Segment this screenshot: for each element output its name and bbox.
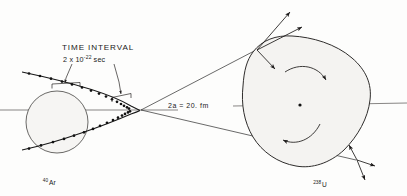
impact-parameter-label: 2a = 20. fm <box>168 102 209 109</box>
scatter-arrow-low-inward <box>349 145 357 160</box>
leader-line-left <box>65 64 72 83</box>
uranium-symbol: U <box>322 181 327 188</box>
uranium-nucleus-outline <box>242 36 370 167</box>
uranium-nucleus-center <box>298 103 301 106</box>
scatter-arrow-low-a <box>357 160 375 166</box>
figure-root: 40 Ar <box>0 0 407 196</box>
time-interval-heading: TIME INTERVAL <box>62 43 134 52</box>
time-interval-value: 2 x 10-22sec <box>63 54 106 64</box>
time-interval-exponent: -22 <box>84 54 92 60</box>
scatter-arrow-low-b <box>357 160 365 180</box>
scattering-diagram: 40 Ar <box>0 0 407 196</box>
uranium-nucleus-group: 238 U <box>242 12 375 188</box>
argon-mass-number: 40 <box>43 178 49 183</box>
uranium-mass-number: 238 <box>313 180 321 185</box>
tangent-point-arrows-lower <box>349 145 375 180</box>
tangent-line-upper <box>141 49 258 110</box>
time-interval-unit: sec <box>94 55 106 64</box>
leader-line-right <box>114 64 121 94</box>
argon-symbol: Ar <box>49 179 56 186</box>
argon-nucleus-circle <box>26 91 88 153</box>
time-interval-mantissa: 2 x 10 <box>63 55 84 64</box>
argon-nucleus-group: 40 Ar <box>26 91 88 186</box>
bracket-left <box>52 83 80 89</box>
